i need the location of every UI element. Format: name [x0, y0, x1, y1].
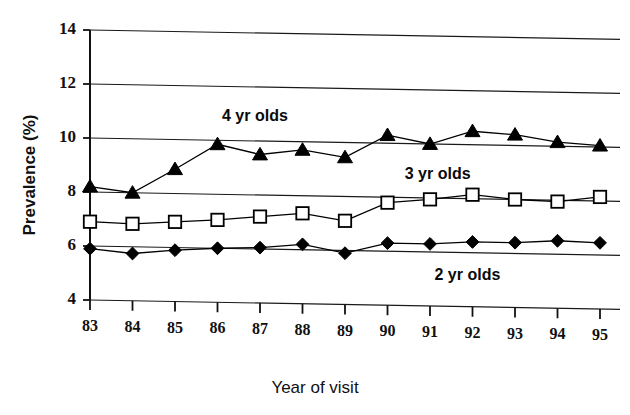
x-tick-label: 89 — [325, 322, 365, 340]
data-point-marker — [339, 247, 352, 260]
data-point-marker — [83, 179, 98, 192]
data-point-marker — [126, 218, 138, 230]
x-tick-label: 86 — [198, 319, 238, 337]
data-point-marker — [465, 124, 480, 137]
x-tick-label: 87 — [240, 320, 280, 338]
gridline — [90, 192, 620, 201]
data-point-marker — [509, 236, 522, 249]
data-point-marker — [339, 215, 351, 227]
data-point-marker — [295, 143, 310, 156]
x-tick-label: 90 — [368, 322, 408, 340]
y-tick-label: 4 — [36, 289, 76, 309]
series-label-3: 2 yr olds — [435, 266, 501, 284]
data-point-marker — [296, 207, 308, 219]
gridline — [90, 84, 620, 93]
data-point-marker — [296, 238, 309, 251]
y-tick-label: 8 — [36, 181, 76, 201]
data-point-marker — [381, 237, 394, 250]
x-tick-label: 85 — [155, 319, 195, 337]
data-point-marker — [84, 216, 96, 228]
x-tick-label: 88 — [283, 321, 323, 339]
series-label-1: 4 yr olds — [222, 107, 288, 125]
data-point-marker — [210, 137, 225, 150]
data-point-marker — [594, 191, 606, 203]
data-point-marker — [169, 216, 181, 228]
y-tick-label: 6 — [36, 235, 76, 255]
x-tick-label: 95 — [580, 326, 620, 344]
data-point-marker — [381, 196, 393, 208]
data-point-marker — [594, 236, 607, 249]
data-point-marker — [424, 193, 436, 205]
data-point-marker — [211, 242, 224, 255]
x-tick-label: 93 — [495, 325, 535, 343]
data-point-marker — [509, 193, 521, 205]
data-point-marker — [254, 210, 266, 222]
data-point-marker — [254, 241, 267, 254]
data-point-marker — [466, 236, 479, 249]
x-tick-label: 83 — [70, 317, 110, 335]
y-tick-label: 12 — [36, 73, 76, 93]
gridline — [90, 300, 620, 309]
prevalence-line-chart: Prevalence (%) Year of visit 468101214 8… — [0, 0, 630, 415]
y-tick-label: 10 — [36, 127, 76, 147]
data-point-marker — [551, 195, 563, 207]
x-tick-label: 91 — [410, 323, 450, 341]
x-tick-label: 92 — [453, 324, 493, 342]
plot-area — [0, 0, 630, 415]
y-tick-label: 14 — [36, 19, 76, 39]
data-point-marker — [169, 244, 182, 257]
data-point-marker — [466, 189, 478, 201]
data-point-marker — [168, 162, 183, 175]
gridline — [90, 30, 620, 39]
series-label-2: 3 yr olds — [405, 165, 471, 183]
data-point-marker — [84, 242, 97, 255]
data-point-marker — [211, 214, 223, 226]
data-point-marker — [126, 247, 139, 260]
x-axis-label: Year of visit — [0, 378, 630, 398]
data-point-marker — [380, 128, 395, 141]
x-tick-label: 84 — [113, 318, 153, 336]
data-point-marker — [424, 238, 437, 251]
data-point-marker — [551, 234, 564, 247]
x-tick-label: 94 — [538, 325, 578, 343]
